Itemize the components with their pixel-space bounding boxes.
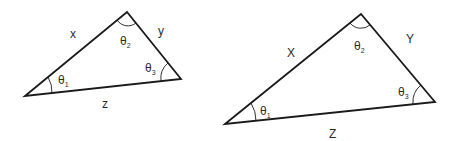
angle-arc-theta1 <box>251 103 256 121</box>
large-triangle-outline <box>225 14 435 124</box>
side-label-z: z <box>102 97 108 111</box>
side-label-y: y <box>158 24 164 38</box>
angle-arc-theta2 <box>350 23 370 28</box>
angle-label-theta3: θ3 <box>398 85 409 100</box>
angle-arc-theta3 <box>413 85 421 104</box>
angle-label-theta1: θ1 <box>260 104 271 119</box>
side-label-X: X <box>287 46 295 60</box>
side-label-x: x <box>70 27 76 41</box>
angle-arc-theta1 <box>48 77 52 93</box>
angle-label-theta2: θ2 <box>354 39 365 54</box>
angle-label-theta3: θ3 <box>145 61 156 76</box>
similar-triangles-diagram: x y z θ1 θ2 θ3 X Y Z θ1 θ2 θ3 <box>0 0 452 141</box>
small-triangle: x y z θ1 θ2 θ3 <box>25 12 181 111</box>
angle-label-theta2: θ2 <box>120 34 131 49</box>
angle-arc-theta3 <box>161 63 168 81</box>
side-label-Y: Y <box>406 32 414 46</box>
large-triangle: X Y Z θ1 θ2 θ3 <box>225 14 435 141</box>
angle-label-theta1: θ1 <box>58 73 69 88</box>
side-label-Z: Z <box>329 127 336 141</box>
